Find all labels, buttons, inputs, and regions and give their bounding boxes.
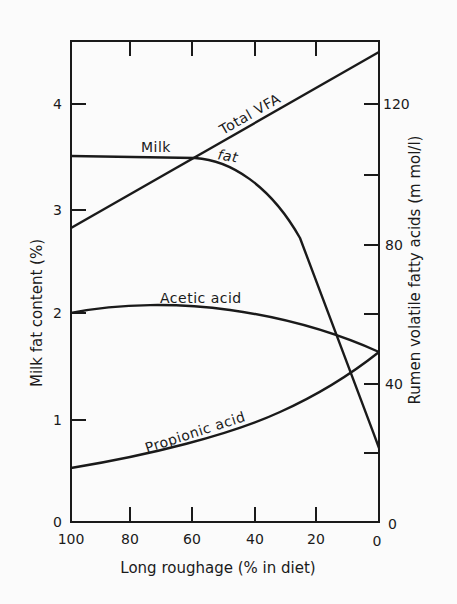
label-acetic-acid: Acetic acid — [160, 290, 242, 306]
propionic-acid-curve — [71, 352, 379, 468]
label-milk: Milk — [141, 139, 171, 155]
total-vfa-line — [71, 52, 379, 228]
acetic-acid-curve — [71, 305, 379, 352]
x-axis-title: Long roughage (% in diet) — [120, 559, 315, 577]
svg-text:80: 80 — [121, 531, 139, 547]
chart: 100 80 60 40 20 0 0 1 2 3 4 0 40 80 120 … — [0, 0, 457, 604]
svg-text:120: 120 — [383, 96, 410, 112]
svg-text:0: 0 — [388, 516, 397, 532]
left-ticks — [71, 104, 86, 420]
x-tick-labels: 100 80 60 40 20 0 — [58, 531, 382, 549]
left-axis-title: Milk fat content (%) — [28, 239, 46, 387]
top-ticks — [130, 41, 316, 56]
left-tick-labels: 0 1 2 3 4 — [53, 96, 62, 530]
right-axis-title: Rumen volatile fatty acids (m mol/l) — [406, 136, 424, 405]
svg-text:0: 0 — [373, 533, 382, 549]
bottom-ticks — [130, 507, 316, 522]
svg-text:20: 20 — [307, 531, 325, 547]
plot-frame — [71, 41, 379, 522]
svg-text:0: 0 — [53, 514, 62, 530]
svg-text:4: 4 — [53, 96, 62, 112]
svg-text:40: 40 — [385, 376, 403, 392]
svg-text:2: 2 — [53, 305, 62, 321]
right-ticks — [364, 104, 379, 453]
svg-text:100: 100 — [58, 531, 85, 547]
label-total-vfa: Total VFA — [216, 90, 283, 138]
svg-text:40: 40 — [246, 531, 264, 547]
svg-text:1: 1 — [53, 412, 62, 428]
label-propionic-acid: Propionic acid — [143, 408, 247, 456]
svg-text:3: 3 — [53, 202, 62, 218]
svg-text:60: 60 — [183, 531, 201, 547]
svg-text:80: 80 — [385, 237, 403, 253]
